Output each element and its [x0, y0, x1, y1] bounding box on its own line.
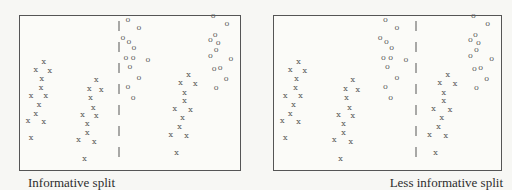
- x-marker: x: [351, 76, 356, 84]
- x-marker: x: [448, 106, 453, 114]
- o-marker: o: [388, 54, 393, 62]
- o-marker: o: [485, 20, 490, 28]
- x-marker: x: [336, 111, 341, 119]
- x-marker: x: [338, 155, 343, 163]
- x-marker: x: [85, 129, 90, 137]
- o-marker: o: [403, 56, 408, 64]
- o-marker: o: [126, 16, 131, 24]
- x-marker: x: [94, 112, 99, 120]
- o-marker: o: [212, 65, 217, 73]
- x-marker: x: [294, 75, 299, 83]
- x-marker: x: [94, 76, 99, 84]
- x-marker: x: [431, 105, 436, 113]
- x-marker: x: [296, 58, 301, 66]
- o-marker: o: [468, 36, 473, 44]
- x-marker: x: [180, 114, 185, 122]
- o-marker: o: [137, 74, 142, 82]
- o-marker: o: [225, 20, 230, 28]
- o-marker: o: [229, 55, 234, 63]
- x-marker: x: [29, 134, 34, 142]
- o-marker: o: [474, 84, 479, 92]
- x-marker: x: [351, 112, 356, 120]
- x-marker: x: [291, 101, 296, 109]
- x-marker: x: [193, 80, 198, 88]
- x-marker: x: [437, 79, 442, 87]
- o-marker: o: [468, 52, 473, 60]
- o-marker: o: [472, 65, 477, 73]
- x-marker: x: [26, 117, 31, 125]
- x-marker: x: [39, 84, 44, 92]
- x-marker: x: [439, 114, 444, 122]
- x-marker: x: [442, 97, 447, 105]
- x-marker: x: [41, 118, 46, 126]
- x-marker: x: [446, 71, 451, 79]
- scatter-panel-informative: xxxxxxxxxxxxxxxxxxxxxxxxxxxxxxxxxxxxoooo…: [19, 15, 241, 171]
- caption-less-informative-split: Less informative split: [390, 176, 503, 190]
- o-marker: o: [208, 36, 213, 44]
- x-marker: x: [76, 136, 81, 144]
- o-marker: o: [394, 74, 399, 82]
- x-marker: x: [177, 123, 182, 131]
- x-marker: x: [332, 136, 337, 144]
- x-marker: x: [82, 155, 87, 163]
- x-marker: x: [348, 138, 353, 146]
- x-marker: x: [178, 79, 183, 87]
- x-marker: x: [436, 123, 441, 131]
- x-marker: x: [298, 92, 303, 100]
- o-marker: o: [388, 94, 393, 102]
- x-marker: x: [343, 85, 348, 93]
- x-marker: x: [288, 66, 293, 74]
- o-marker: o: [128, 63, 133, 71]
- o-marker: o: [383, 16, 388, 24]
- x-marker: x: [47, 67, 52, 75]
- o-marker: o: [211, 12, 216, 20]
- o-marker: o: [131, 94, 136, 102]
- o-marker: o: [145, 56, 150, 64]
- x-marker: x: [341, 120, 346, 128]
- x-marker: x: [344, 94, 349, 102]
- x-marker: x: [182, 97, 187, 105]
- x-marker: x: [34, 110, 39, 118]
- o-marker: o: [474, 46, 479, 54]
- x-marker: x: [453, 80, 458, 88]
- x-marker: x: [302, 67, 307, 75]
- x-marker: x: [34, 66, 39, 74]
- x-marker: x: [92, 138, 97, 146]
- x-marker: x: [99, 86, 104, 94]
- x-marker: x: [288, 110, 293, 118]
- x-marker: x: [355, 86, 360, 94]
- x-marker: x: [172, 105, 177, 113]
- x-marker: x: [293, 84, 298, 92]
- o-marker: o: [124, 54, 129, 62]
- o-marker: o: [208, 52, 213, 60]
- scatter-panel-less-informative: xxxxxxxxxxxxxxxxxxxxxxxxxxxxxxxxxxxxoooo…: [273, 15, 502, 171]
- o-marker: o: [381, 54, 386, 62]
- x-marker: x: [43, 92, 48, 100]
- x-marker: x: [80, 111, 85, 119]
- decision-split-figure: xxxxxxxxxxxxxxxxxxxxxxxxxxxxxxxxxxxxoooo…: [0, 0, 512, 190]
- o-marker: o: [478, 64, 483, 72]
- o-marker: o: [394, 24, 399, 32]
- x-marker: x: [427, 131, 432, 139]
- split-line: [118, 21, 119, 168]
- o-marker: o: [489, 55, 494, 63]
- x-marker: x: [184, 132, 189, 140]
- x-marker: x: [85, 120, 90, 128]
- x-marker: x: [88, 94, 93, 102]
- o-marker: o: [385, 63, 390, 71]
- o-marker: o: [224, 75, 229, 83]
- x-marker: x: [433, 149, 438, 157]
- split-line: [416, 21, 417, 168]
- x-marker: x: [186, 71, 191, 79]
- o-marker: o: [137, 24, 142, 32]
- o-marker: o: [218, 64, 223, 72]
- o-marker: o: [132, 44, 137, 52]
- o-marker: o: [378, 34, 383, 42]
- o-marker: o: [383, 83, 388, 91]
- caption-informative-split: Informative split: [28, 176, 115, 190]
- x-marker: x: [41, 58, 46, 66]
- o-marker: o: [131, 54, 136, 62]
- x-marker: x: [188, 106, 193, 114]
- x-marker: x: [341, 129, 346, 137]
- o-marker: o: [384, 38, 389, 46]
